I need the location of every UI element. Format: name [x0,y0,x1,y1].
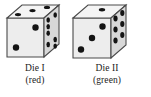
caption-die-two: Die II (green) [71,63,143,86]
die-one-front-face [7,18,44,57]
caption-die-two-color: (green) [71,75,143,87]
dice-stage [0,0,151,66]
caption-die-two-name: Die II [71,63,143,75]
two-dice-figure: Die I (red) Die II (green) [0,0,151,97]
die-one-graphic [4,0,66,62]
caption-die-one-name: Die I [4,63,66,75]
die-two-graphic [69,0,139,62]
die-two-top-pips [99,8,105,11]
caption-die-one: Die I (red) [4,63,66,86]
dice-captions: Die I (red) Die II (green) [0,63,151,97]
caption-die-one-color: (red) [4,75,66,87]
